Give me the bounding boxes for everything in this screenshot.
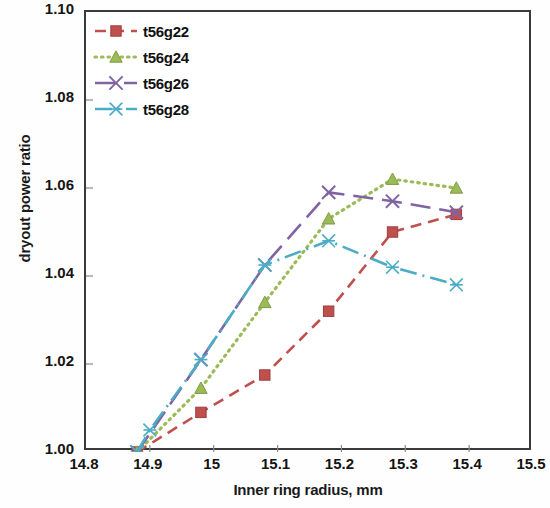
- legend-symbol-t56g28-icon: [93, 99, 139, 119]
- x-tick-label: 14.8: [54, 455, 114, 472]
- legend-label: t56g26: [143, 75, 189, 92]
- legend-item-t56g22[interactable]: t56g22: [93, 18, 221, 44]
- series-t56g22: [132, 209, 462, 452]
- legend-symbol-t56g24-icon: [93, 47, 139, 67]
- legend-label: t56g28: [143, 101, 189, 118]
- legend-item-t56g24[interactable]: t56g24: [93, 44, 221, 70]
- y-tick-label: 1.08: [8, 88, 74, 105]
- x-tick-label: 15.1: [246, 455, 306, 472]
- series-t56g24: [131, 173, 463, 452]
- legend-item-t56g26[interactable]: t56g26: [93, 70, 221, 96]
- x-tick-label: 14.9: [118, 455, 178, 472]
- y-tick-label: 1.02: [8, 352, 74, 369]
- legend-symbol-t56g22-icon: [93, 21, 139, 41]
- y-tick-label: 1.04: [8, 264, 74, 281]
- legend-label: t56g24: [143, 49, 189, 66]
- y-tick-label: 1.06: [8, 176, 74, 193]
- y-tick-label: 1.10: [8, 0, 74, 17]
- legend-item-t56g28[interactable]: t56g28: [93, 96, 221, 122]
- chart-figure: dryout power ratio Inner ring radius, mm…: [0, 0, 550, 508]
- series-t56g28: [131, 234, 463, 452]
- x-tick-label: 15.5: [501, 455, 550, 472]
- x-tick-label: 15.3: [373, 455, 433, 472]
- legend-symbol-t56g26-icon: [93, 73, 139, 93]
- legend-label: t56g22: [143, 23, 189, 40]
- x-tick-label: 15: [182, 455, 242, 472]
- chart-legend: t56g22t56g24t56g26t56g28: [93, 18, 221, 122]
- x-tick-label: 15.2: [309, 455, 369, 472]
- x-tick-label: 15.4: [437, 455, 497, 472]
